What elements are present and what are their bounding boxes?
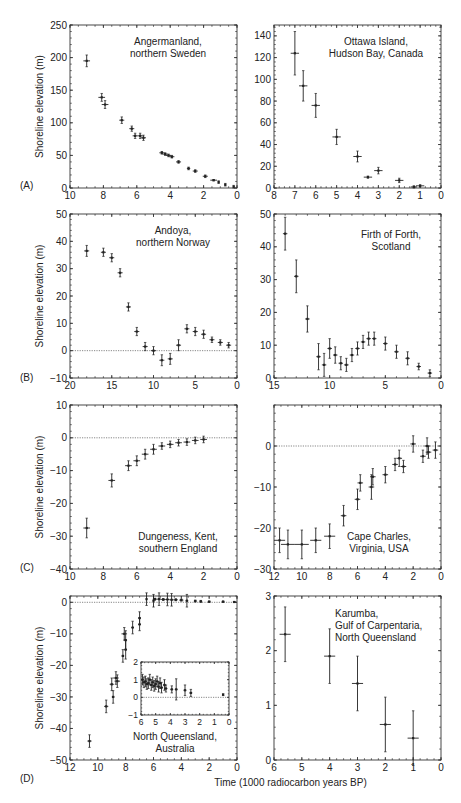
svg-text:10: 10 [260, 340, 272, 351]
svg-text:−20: −20 [50, 498, 67, 509]
svg-text:4: 4 [327, 762, 333, 773]
svg-text:−30: −30 [254, 564, 271, 575]
svg-text:0: 0 [234, 571, 240, 582]
svg-text:10: 10 [296, 571, 308, 582]
svg-text:100: 100 [50, 117, 67, 128]
svg-text:3: 3 [355, 762, 361, 773]
svg-text:0: 0 [265, 441, 271, 452]
svg-text:Dungeness, Kent,: Dungeness, Kent, [138, 531, 218, 542]
svg-text:10: 10 [92, 762, 104, 773]
svg-text:5: 5 [192, 380, 198, 391]
sea-level-figure: 1086420050100150200250Angermanland,north… [0, 0, 461, 803]
svg-text:1: 1 [133, 675, 138, 685]
svg-text:Shoreline elevation (m): Shoreline elevation (m) [34, 245, 45, 348]
svg-text:−1: −1 [128, 710, 138, 720]
svg-text:−10: −10 [50, 373, 67, 384]
svg-text:60: 60 [260, 117, 272, 128]
panel-c-right: 121086420−30−20−100Cape Charles,Virginia… [254, 405, 444, 582]
svg-text:7: 7 [292, 190, 298, 201]
svg-text:4: 4 [179, 762, 185, 773]
svg-text:20: 20 [56, 291, 68, 302]
plots-canvas: 1086420050100150200250Angermanland,north… [0, 0, 461, 803]
panel-d-right: 65432100123Karumba,Gulf of Carpentaria,N… [265, 591, 444, 773]
svg-text:0: 0 [234, 762, 240, 773]
svg-text:−40: −40 [50, 723, 67, 734]
svg-text:2: 2 [201, 571, 207, 582]
svg-text:10: 10 [56, 318, 68, 329]
svg-text:6: 6 [134, 571, 140, 582]
svg-text:−10: −10 [254, 482, 271, 493]
svg-text:120: 120 [254, 52, 271, 63]
svg-text:Virginia, USA: Virginia, USA [349, 543, 409, 554]
svg-text:30: 30 [56, 263, 68, 274]
svg-text:250: 250 [50, 20, 67, 31]
svg-text:4: 4 [167, 190, 173, 201]
svg-text:−10: −10 [50, 628, 67, 639]
svg-text:6: 6 [271, 762, 277, 773]
svg-text:Shoreline elevation (m): Shoreline elevation (m) [34, 55, 45, 158]
svg-text:50: 50 [260, 209, 272, 220]
svg-text:6: 6 [134, 190, 140, 201]
x-axis-label: Time (1000 radiocarbon years BP) [0, 777, 461, 788]
svg-text:2: 2 [410, 571, 416, 582]
svg-text:8: 8 [101, 190, 107, 201]
svg-text:0: 0 [265, 755, 271, 766]
panel-b-left: 20151050−1001020304050Andoya,northern No… [34, 209, 240, 391]
svg-text:−30: −30 [50, 692, 67, 703]
svg-text:1: 1 [265, 700, 271, 711]
svg-text:6: 6 [313, 190, 319, 201]
svg-text:0: 0 [265, 183, 271, 194]
svg-text:0: 0 [438, 190, 444, 201]
svg-text:10: 10 [56, 400, 68, 411]
svg-text:Cape Charles,: Cape Charles, [347, 531, 411, 542]
panel-d-left: 121086420−50−40−30−20−100Shoreline eleva… [34, 593, 240, 773]
svg-text:6: 6 [151, 762, 157, 773]
svg-text:5: 5 [334, 190, 340, 201]
svg-text:2: 2 [197, 717, 202, 727]
svg-text:8: 8 [101, 571, 107, 582]
svg-text:4: 4 [383, 571, 389, 582]
svg-text:0: 0 [133, 692, 138, 702]
svg-text:Gulf of Carpentaria,: Gulf of Carpentaria, [335, 620, 422, 631]
svg-text:−10: −10 [50, 465, 67, 476]
svg-text:1: 1 [212, 717, 217, 727]
svg-text:2: 2 [206, 762, 212, 773]
row-label-b: (B) [20, 372, 33, 383]
svg-text:−50: −50 [50, 755, 67, 766]
svg-text:Shoreline elevation (m): Shoreline elevation (m) [34, 627, 45, 730]
svg-text:Angermanland,: Angermanland, [134, 36, 202, 47]
svg-text:2: 2 [133, 657, 138, 667]
svg-text:Andoya,: Andoya, [155, 225, 192, 236]
svg-text:2: 2 [383, 762, 389, 773]
svg-text:0: 0 [227, 717, 232, 727]
svg-text:100: 100 [254, 74, 271, 85]
svg-text:−40: −40 [50, 564, 67, 575]
svg-text:0: 0 [438, 380, 444, 391]
svg-text:5: 5 [299, 762, 305, 773]
svg-text:80: 80 [260, 96, 272, 107]
svg-text:8: 8 [327, 571, 333, 582]
svg-text:4: 4 [167, 571, 173, 582]
svg-text:4: 4 [168, 717, 173, 727]
svg-text:8: 8 [123, 762, 129, 773]
svg-text:−20: −20 [50, 660, 67, 671]
svg-text:0: 0 [61, 597, 67, 608]
svg-text:−20: −20 [254, 523, 271, 534]
svg-text:3: 3 [376, 190, 382, 201]
inset-plot: 6543210−1012North Queensland,Australia [128, 657, 231, 754]
svg-text:5: 5 [383, 380, 389, 391]
svg-text:Scotland: Scotland [372, 241, 411, 252]
svg-text:40: 40 [260, 139, 272, 150]
svg-text:20: 20 [260, 161, 272, 172]
panel-c-left: 1086420−40−30−20−10010Dungeness, Kent,so… [34, 400, 240, 582]
svg-text:southern England: southern England [139, 543, 217, 554]
svg-text:20: 20 [260, 307, 272, 318]
svg-text:15: 15 [106, 380, 118, 391]
svg-text:10: 10 [148, 380, 160, 391]
svg-text:0: 0 [61, 183, 67, 194]
panel-b-right: 15105001020304050Firth of Forth,Scotland [260, 209, 444, 391]
svg-text:Hudson Bay, Canada: Hudson Bay, Canada [329, 48, 424, 59]
svg-text:Shoreline elevation (m): Shoreline elevation (m) [34, 436, 45, 539]
svg-text:140: 140 [254, 30, 271, 41]
svg-text:4: 4 [355, 190, 361, 201]
